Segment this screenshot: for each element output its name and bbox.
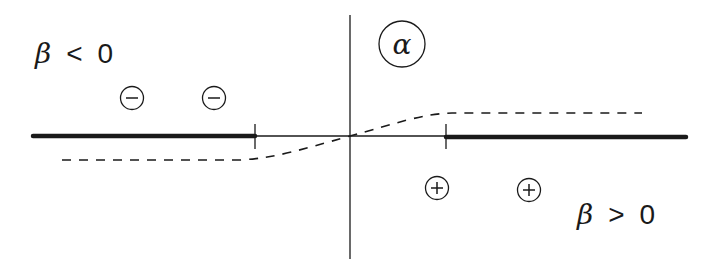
diagram-canvas: α β < 0 β > 0 [0,0,710,269]
beta-symbol: β [576,198,593,231]
zero-value: 0 [640,199,656,230]
negative-charge-1 [121,87,144,110]
positive-charge-2 [518,179,541,202]
alpha-marker: α [379,21,425,67]
alpha-label: α [393,28,412,61]
positive-charge-1 [426,177,449,200]
greater-than-symbol: > [608,199,624,230]
beta-symbol: β [34,37,51,70]
beta-negative-label: β < 0 [34,37,113,70]
zero-value: 0 [98,38,114,69]
less-than-symbol: < [66,38,82,69]
negative-charge-2 [203,87,226,110]
beta-positive-label: β > 0 [576,198,655,231]
